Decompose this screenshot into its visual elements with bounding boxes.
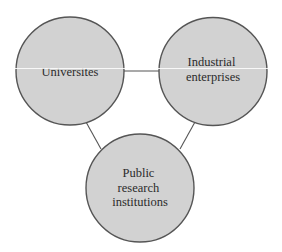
triangle-network-diagram: Universites Industrial enterprises Publi… [0,0,282,252]
node-industrial-enterprises: Industrial enterprises [159,18,267,126]
node-label-line: Industrial [187,55,235,69]
node-label-line: institutions [112,195,168,209]
svg-text:Industrial enterprises: Industrial enterprises [186,55,240,84]
node-label-line: research [118,181,160,195]
svg-text:Universites: Universites [42,65,99,79]
node-public-research-institutions: Public research institutions [86,134,194,242]
edge-universities-public [86,122,101,149]
node-label-line: enterprises [186,70,240,84]
node-universities: Universites [16,17,124,125]
edge-industrial-public [180,122,195,149]
node-label-line: Public [122,166,154,180]
node-label-line: Universites [42,65,99,79]
